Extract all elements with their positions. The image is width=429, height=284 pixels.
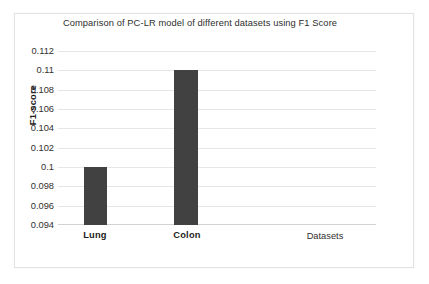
gridline (58, 90, 376, 91)
bar-lung (84, 167, 107, 225)
plot-area (58, 51, 376, 225)
y-axis-tick-labels: 0.112 0.11 0.108 0.106 0.104 0.102 0.1 0… (4, 51, 54, 225)
y-axis-tick-label: 0.112 (6, 46, 54, 56)
gridline (58, 51, 376, 52)
chart-figure: Comparison of PC-LR model of different d… (0, 0, 429, 284)
gridline (58, 148, 376, 149)
y-axis-tick-label: 0.094 (6, 220, 54, 230)
y-axis-tick-label: 0.11 (6, 65, 54, 75)
y-axis-tick-label: 0.102 (6, 143, 54, 153)
y-axis-tick-label: 0.1 (6, 162, 54, 172)
gridline (58, 70, 376, 71)
x-axis-tick-label-lung: Lung (70, 230, 120, 240)
y-axis-tick-label: 0.106 (6, 104, 54, 114)
gridline (58, 128, 376, 129)
chart-title: Comparison of PC-LR model of different d… (24, 17, 376, 29)
x-axis-tick-label-colon: Colon (162, 230, 212, 240)
y-axis-tick-label: 0.098 (6, 181, 54, 191)
gridline (58, 109, 376, 110)
y-axis-tick-label: 0.108 (6, 85, 54, 95)
y-axis-tick-label: 0.096 (6, 201, 54, 211)
y-axis-tick-label: 0.104 (6, 123, 54, 133)
bar-colon (174, 70, 198, 225)
x-axis-title: Datasets (285, 231, 365, 241)
